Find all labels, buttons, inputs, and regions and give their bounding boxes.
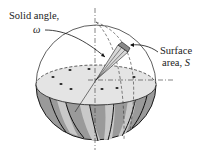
solid-angle-diagram xyxy=(0,0,204,150)
omega-symbol: ω xyxy=(33,24,40,36)
surface-symbol: S xyxy=(185,57,190,68)
omega-leader xyxy=(45,30,105,57)
surface-label-line1: Surface xyxy=(160,45,192,57)
surface-label-line2: area, S xyxy=(162,57,190,69)
surface-label-prefix: area, xyxy=(162,57,185,68)
solid-angle-label: Solid angle, xyxy=(9,10,59,22)
surface-leader xyxy=(131,45,158,52)
